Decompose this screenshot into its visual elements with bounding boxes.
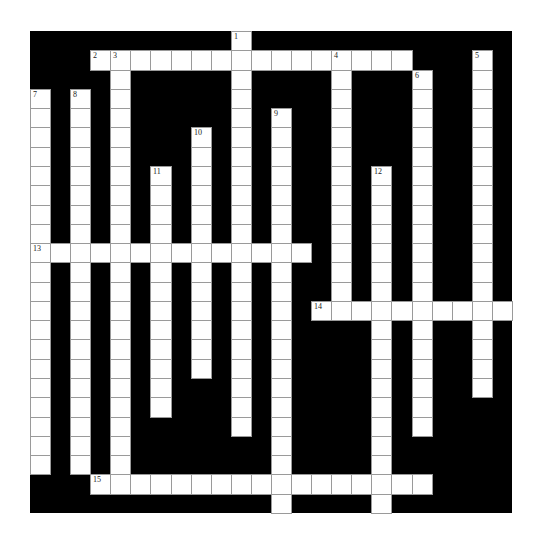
crossword-cell[interactable] [231, 378, 252, 398]
crossword-cell[interactable]: 3 [110, 50, 131, 71]
crossword-cell[interactable] [472, 282, 493, 302]
crossword-cell[interactable] [412, 339, 433, 360]
crossword-cell[interactable] [150, 378, 172, 398]
crossword-cell[interactable] [331, 89, 352, 109]
crossword-cell[interactable] [231, 224, 252, 244]
crossword-cell[interactable] [70, 185, 91, 206]
crossword-cell[interactable] [231, 147, 252, 167]
crossword-cell[interactable] [331, 301, 352, 321]
crossword-cell[interactable] [150, 301, 172, 321]
crossword-cell[interactable] [70, 339, 91, 360]
crossword-cell[interactable] [30, 185, 51, 206]
crossword-cell[interactable] [472, 320, 493, 340]
crossword-cell[interactable] [150, 397, 172, 418]
crossword-cell[interactable] [371, 455, 392, 475]
crossword-cell[interactable] [311, 50, 332, 71]
crossword-cell[interactable] [331, 224, 352, 244]
crossword-cell[interactable] [30, 378, 51, 398]
crossword-cell[interactable] [191, 205, 212, 225]
crossword-cell[interactable] [231, 474, 252, 495]
crossword-cell[interactable] [271, 224, 292, 244]
crossword-cell[interactable] [110, 436, 131, 456]
crossword-cell[interactable] [231, 50, 252, 71]
crossword-cell[interactable] [110, 89, 131, 109]
crossword-cell[interactable] [271, 282, 292, 302]
crossword-cell[interactable] [271, 262, 292, 283]
crossword-cell[interactable] [150, 320, 172, 340]
crossword-cell[interactable] [331, 185, 352, 206]
crossword-cell[interactable] [492, 301, 513, 321]
crossword-cell[interactable] [150, 359, 172, 379]
crossword-cell[interactable] [351, 301, 372, 321]
crossword-cell[interactable] [391, 474, 413, 495]
crossword-cell[interactable] [70, 436, 91, 456]
crossword-cell[interactable] [150, 282, 172, 302]
crossword-cell[interactable] [150, 262, 172, 283]
crossword-cell[interactable] [30, 282, 51, 302]
crossword-cell[interactable] [50, 243, 71, 263]
crossword-cell[interactable] [30, 301, 51, 321]
crossword-cell[interactable] [150, 205, 172, 225]
crossword-cell[interactable] [110, 359, 131, 379]
crossword-cell[interactable] [271, 301, 292, 321]
crossword-cell[interactable] [231, 166, 252, 186]
crossword-cell[interactable] [472, 166, 493, 186]
crossword-cell[interactable] [150, 243, 172, 263]
crossword-cell[interactable] [191, 224, 212, 244]
crossword-cell[interactable] [251, 50, 272, 71]
crossword-cell[interactable] [412, 147, 433, 167]
crossword-cell[interactable] [412, 243, 433, 263]
crossword-cell[interactable] [472, 89, 493, 109]
crossword-cell[interactable] [412, 166, 433, 186]
crossword-cell[interactable] [30, 455, 51, 475]
crossword-cell[interactable] [371, 185, 392, 206]
crossword-cell[interactable] [191, 282, 212, 302]
crossword-cell[interactable]: 4 [331, 50, 352, 71]
crossword-cell[interactable] [70, 282, 91, 302]
crossword-cell[interactable] [472, 70, 493, 90]
crossword-cell[interactable] [70, 243, 91, 263]
crossword-cell[interactable] [271, 474, 292, 495]
crossword-cell[interactable] [291, 50, 312, 71]
crossword-cell[interactable]: 5 [472, 50, 493, 71]
crossword-cell[interactable] [371, 243, 392, 263]
crossword-cell[interactable] [231, 89, 252, 109]
crossword-cell[interactable] [271, 147, 292, 167]
crossword-cell[interactable] [412, 262, 433, 283]
crossword-cell[interactable] [371, 224, 392, 244]
crossword-cell[interactable] [412, 474, 433, 495]
crossword-cell[interactable] [412, 301, 433, 321]
crossword-cell[interactable] [191, 243, 212, 263]
crossword-cell[interactable] [90, 243, 111, 263]
crossword-cell[interactable] [150, 185, 172, 206]
crossword-cell[interactable] [110, 127, 131, 148]
crossword-cell[interactable] [70, 359, 91, 379]
crossword-cell[interactable] [70, 205, 91, 225]
crossword-cell[interactable] [412, 89, 433, 109]
crossword-cell[interactable] [191, 320, 212, 340]
crossword-cell[interactable] [371, 397, 392, 418]
crossword-cell[interactable] [150, 50, 172, 71]
crossword-cell[interactable] [472, 301, 493, 321]
crossword-cell[interactable] [70, 455, 91, 475]
crossword-cell[interactable] [110, 166, 131, 186]
crossword-cell[interactable] [231, 127, 252, 148]
crossword-cell[interactable] [30, 262, 51, 283]
crossword-cell[interactable] [191, 339, 212, 360]
crossword-cell[interactable] [391, 301, 413, 321]
crossword-cell[interactable] [371, 417, 392, 437]
crossword-cell[interactable] [271, 494, 292, 514]
crossword-cell[interactable] [371, 50, 392, 71]
crossword-cell[interactable] [331, 147, 352, 167]
crossword-cell[interactable] [30, 417, 51, 437]
crossword-cell[interactable] [371, 339, 392, 360]
crossword-cell[interactable] [231, 282, 252, 302]
crossword-cell[interactable] [110, 378, 131, 398]
crossword-cell[interactable] [70, 262, 91, 283]
crossword-cell[interactable] [412, 320, 433, 340]
crossword-cell[interactable] [191, 50, 212, 71]
crossword-cell[interactable] [412, 108, 433, 128]
crossword-cell[interactable] [191, 301, 212, 321]
crossword-cell[interactable]: 2 [90, 50, 111, 71]
crossword-cell[interactable] [70, 147, 91, 167]
